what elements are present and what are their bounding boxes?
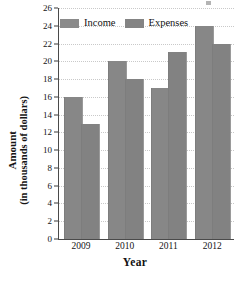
- y-axis-tick-label: 18: [43, 75, 52, 84]
- y-axis-title: Amount (in thousands of dollars): [0, 60, 36, 240]
- y-axis-tick-label: 0: [48, 235, 53, 244]
- bar-expenses-2012: [212, 44, 231, 239]
- x-axis-title: Year: [36, 256, 234, 268]
- y-axis-tick-label: 10: [43, 146, 52, 155]
- y-axis-tick-label: 4: [48, 199, 53, 208]
- chart-legend: IncomeExpenses: [60, 16, 188, 30]
- plot-wrapper: 02468101214161820222426 2009201020112012: [36, 8, 234, 240]
- y-axis-tick-label: 6: [48, 181, 53, 190]
- y-axis-tick-label: 26: [43, 4, 52, 13]
- legend-item-income: Income: [60, 18, 116, 29]
- y-axis-tick-label: 22: [43, 39, 52, 48]
- y-axis-tick-label: 12: [43, 128, 52, 137]
- y-axis-tick-label: 20: [43, 57, 52, 66]
- legend-swatch-income: [60, 19, 79, 28]
- bar-expenses-2009: [81, 124, 100, 240]
- x-axis-tick-label: 2012: [203, 242, 222, 252]
- bar-chart: Amount (in thousands of dollars) 0246810…: [0, 0, 242, 284]
- y-axis-tick-label: 2: [48, 217, 53, 226]
- y-axis-tick-label: 14: [43, 110, 52, 119]
- y-axis-tick-labels: 02468101214161820222426: [36, 8, 54, 240]
- y-axis-tick-label: 16: [43, 92, 52, 101]
- x-axis-tick-label: 2010: [115, 242, 134, 252]
- y-axis-title-units: (in thousands of dollars): [19, 96, 30, 205]
- scan-artifact: [206, 1, 211, 5]
- gridline: [59, 8, 234, 9]
- y-axis-tick-label: 24: [43, 21, 52, 30]
- y-axis-title-main: Amount: [7, 131, 18, 170]
- x-axis-tick-label: 2009: [71, 242, 90, 252]
- bar-expenses-2011: [168, 52, 187, 239]
- legend-swatch-expenses: [125, 19, 144, 28]
- legend-label-expenses: Expenses: [149, 18, 189, 29]
- x-axis-tick-label: 2011: [159, 242, 178, 252]
- bar-expenses-2010: [125, 79, 144, 239]
- legend-item-expenses: Expenses: [125, 18, 189, 29]
- legend-label-income: Income: [84, 18, 116, 29]
- plot-area: [59, 8, 234, 239]
- y-axis-tick-label: 8: [48, 163, 53, 172]
